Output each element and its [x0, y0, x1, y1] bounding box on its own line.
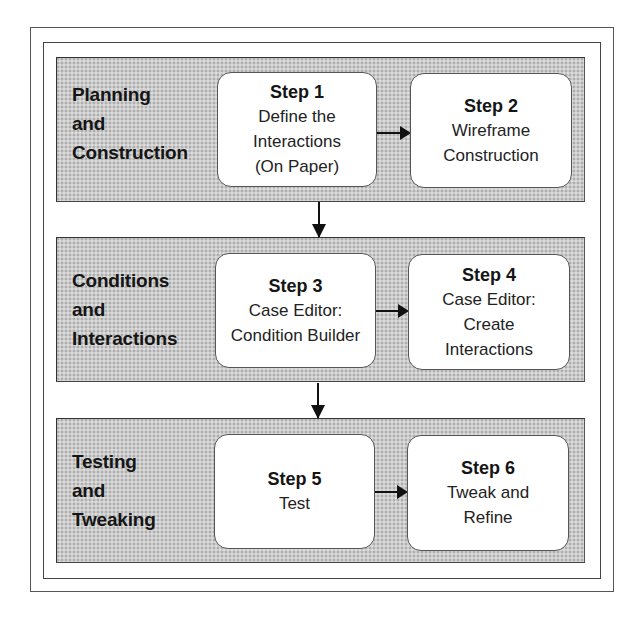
step-title: Step 3	[268, 274, 322, 298]
arrow-right-icon	[375, 491, 406, 493]
step-text: Tweak and	[447, 480, 529, 505]
phase-panel-conditions-and-interactions: Conditions and Interactions Step 3 Case …	[56, 237, 585, 382]
phase-title: Conditions and Interactions	[72, 266, 177, 353]
step-box-6: Step 6 Tweak and Refine	[407, 435, 569, 551]
step-box-3: Step 3 Case Editor: Condition Builder	[215, 253, 376, 368]
step-text: Test	[279, 491, 310, 516]
step-title: Step 1	[270, 80, 324, 104]
step-text: Interactions	[253, 129, 341, 154]
step-text: Case Editor:	[249, 298, 343, 323]
step-text: Create	[463, 312, 514, 337]
arrow-down-icon	[317, 383, 319, 418]
step-box-5: Step 5 Test	[214, 434, 375, 549]
phase-title: Planning and Construction	[72, 80, 188, 167]
step-title: Step 5	[267, 467, 321, 491]
step-text: Construction	[443, 143, 538, 168]
phase-title-line: Tweaking	[72, 505, 156, 534]
step-text: Wireframe	[452, 118, 530, 143]
phase-title-line: Planning	[72, 80, 188, 109]
step-title: Step 6	[461, 456, 515, 480]
phase-title: Testing and Tweaking	[72, 447, 156, 534]
step-text: Refine	[463, 505, 512, 530]
arrow-down-icon	[318, 202, 320, 237]
step-text: Define the	[258, 104, 336, 129]
step-text: (On Paper)	[255, 154, 339, 179]
step-text: Interactions	[445, 337, 533, 362]
step-box-1: Step 1 Define the Interactions (On Paper…	[217, 72, 377, 187]
phase-panel-planning-and-construction: Planning and Construction Step 1 Define …	[56, 57, 585, 202]
arrow-right-icon	[376, 310, 407, 312]
phase-title-line: Construction	[72, 138, 188, 167]
step-text: Case Editor:	[442, 287, 536, 312]
step-text: Condition Builder	[231, 323, 360, 348]
phase-title-line: and	[72, 295, 177, 324]
phase-panel-testing-and-tweaking: Testing and Tweaking Step 5 Test Step 6 …	[56, 418, 585, 563]
step-title: Step 4	[462, 263, 516, 287]
phase-title-line: Testing	[72, 447, 156, 476]
step-box-2: Step 2 Wireframe Construction	[410, 73, 572, 188]
phase-title-line: and	[72, 109, 188, 138]
step-title: Step 2	[464, 94, 518, 118]
phase-title-line: and	[72, 476, 156, 505]
phase-title-line: Conditions	[72, 266, 177, 295]
step-box-4: Step 4 Case Editor: Create Interactions	[408, 254, 570, 370]
arrow-right-icon	[377, 132, 409, 134]
phase-title-line: Interactions	[72, 324, 177, 353]
